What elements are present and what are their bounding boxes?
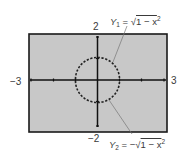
eq1-equals: = [120, 16, 131, 27]
eq1-exponent: 2 [157, 15, 161, 22]
equation-y2-label: Y2 = −√1 − x2 [109, 137, 165, 153]
ymax-label: 2 [93, 22, 99, 32]
eq1-radicand: 1 − x [136, 16, 157, 27]
xmax-label: 3 [171, 76, 177, 86]
eq2-equals: = − [119, 139, 135, 150]
xmin-label: −3 [10, 77, 21, 87]
eq2-exponent: 2 [161, 138, 165, 145]
eq2-radicand: 1 − x [141, 139, 162, 150]
ymin-label: −2 [88, 134, 99, 144]
equation-y1-label: Y1 = √1 − x2 [110, 14, 161, 30]
